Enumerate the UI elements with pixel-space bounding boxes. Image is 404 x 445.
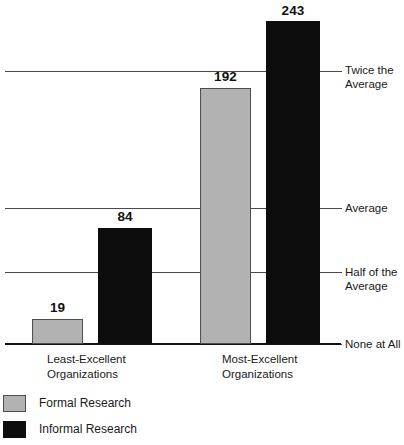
bar-value-19: 19 bbox=[32, 300, 83, 315]
tick-twice-the-average bbox=[325, 71, 342, 72]
legend-item-formal-research[interactable]: Formal Research bbox=[3, 395, 203, 413]
category-label-least-excellent-organizations: Least-Excellent Organizations bbox=[47, 352, 187, 381]
bar-informal-most-excellent[interactable] bbox=[266, 21, 320, 344]
bar-value-243: 243 bbox=[264, 3, 322, 18]
plot-area: 19 84 192 243 Twice the Average Average … bbox=[0, 0, 404, 390]
scale-label-average: Average bbox=[345, 201, 388, 215]
legend-item-informal-research[interactable]: Informal Research bbox=[3, 421, 203, 439]
bar-value-84: 84 bbox=[98, 209, 152, 224]
legend-label-formal-research: Formal Research bbox=[39, 396, 131, 411]
legend-swatch-formal-research bbox=[3, 395, 26, 412]
chart-legend: Formal Research Informal Research bbox=[0, 390, 404, 445]
bar-formal-least-excellent[interactable] bbox=[32, 319, 83, 344]
legend-label-informal-research: Informal Research bbox=[39, 422, 137, 437]
bar-chart: 19 84 192 243 Twice the Average Average … bbox=[0, 0, 404, 445]
bar-informal-least-excellent[interactable] bbox=[98, 228, 152, 344]
tick-average bbox=[325, 208, 342, 209]
legend-swatch-informal-research bbox=[3, 421, 26, 438]
category-label-most-excellent-organizations: Most-Excellent Organizations bbox=[222, 352, 362, 381]
tick-half-of-the-average bbox=[325, 272, 342, 273]
bar-formal-most-excellent[interactable] bbox=[200, 88, 251, 344]
bar-value-192: 192 bbox=[198, 69, 253, 84]
scale-label-none-at-all: None at All bbox=[345, 337, 401, 351]
scale-label-half-of-the-average: Half of the Average bbox=[345, 265, 397, 293]
scale-label-twice-the-average: Twice the Average bbox=[345, 63, 394, 91]
